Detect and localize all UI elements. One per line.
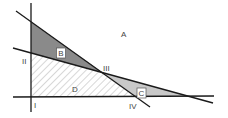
label-region-b: B — [58, 49, 63, 58]
label-point-i: I — [34, 101, 36, 110]
linear-programming-diagram: A B C D I II III IV — [0, 0, 228, 118]
label-point-iv: IV — [129, 102, 137, 111]
label-point-iii: III — [103, 64, 110, 73]
label-region-d: D — [72, 85, 78, 94]
label-region-c: C — [139, 89, 145, 98]
label-point-ii: II — [22, 57, 26, 66]
label-region-a: A — [121, 30, 127, 39]
